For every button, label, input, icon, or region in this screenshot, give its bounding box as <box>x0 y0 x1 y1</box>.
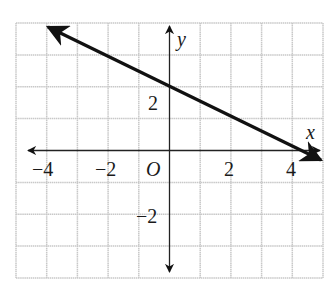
x-tick-label: −2 <box>95 158 116 180</box>
coordinate-graph: y x O −4 −2 2 4 2 −2 <box>0 0 335 289</box>
y-tick-label: −2 <box>136 205 157 227</box>
origin-label: O <box>146 158 160 180</box>
y-tick-label: 2 <box>148 92 158 114</box>
x-tick-label: 4 <box>286 158 296 180</box>
x-axis-label: x <box>305 121 315 143</box>
x-tick-label: −4 <box>32 158 53 180</box>
y-axis-label: y <box>175 28 186 51</box>
x-tick-label: 2 <box>224 158 234 180</box>
